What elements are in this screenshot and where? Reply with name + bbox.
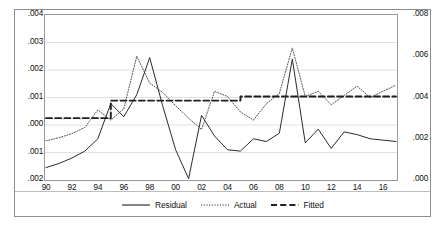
right-axis-ticks: .008.006.004.002.000	[400, 14, 430, 181]
x-axis-ticks: 9092949698000204060810121416	[44, 183, 398, 195]
left-axis-tick-label: .002	[28, 65, 43, 73]
legend-label: Fitted	[304, 200, 324, 210]
plot-svg	[45, 15, 397, 180]
legend-item-residual[interactable]: Residual	[121, 200, 187, 210]
legend-divider	[15, 191, 430, 192]
legend-item-fitted[interactable]: Fitted	[270, 200, 324, 210]
legend-label: Residual	[155, 200, 187, 210]
series-line-actual	[46, 48, 396, 141]
legend-swatch-fitted-icon	[270, 201, 300, 209]
left-axis-tick-label: .003	[28, 38, 43, 46]
left-axis-tick-label: .004	[28, 10, 43, 18]
legend-swatch-residual-icon	[121, 201, 151, 209]
left-axis-tick-label: .000	[28, 120, 43, 128]
legend-label: Actual	[234, 200, 257, 210]
series-line-fitted	[46, 96, 396, 118]
chart-figure: .004.003.002.001.000.001.002 .008.006.00…	[0, 0, 445, 228]
chart-legend: ResidualActualFitted	[14, 196, 431, 214]
left-axis-tick-label: .001	[28, 148, 43, 156]
plot-area	[44, 14, 398, 181]
left-axis-ticks: .004.003.002.001.000.001.002	[17, 14, 43, 181]
right-axis-tick-label: .000	[413, 175, 428, 183]
legend-item-actual[interactable]: Actual	[200, 200, 257, 210]
right-axis-tick-label: .008	[413, 10, 428, 18]
right-axis-tick-label: .006	[413, 51, 428, 59]
legend-swatch-actual-icon	[200, 201, 230, 209]
left-axis-tick-label: .001	[28, 93, 43, 101]
right-axis-tick-label: .002	[413, 134, 428, 142]
left-axis-tick-label: .002	[28, 175, 43, 183]
right-axis-tick-label: .004	[413, 93, 428, 101]
